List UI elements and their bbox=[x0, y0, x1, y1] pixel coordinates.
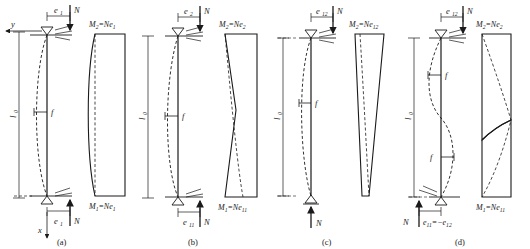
panel-b-moment-diagram: M2=Ne2 M1=Ne11 bbox=[217, 20, 257, 213]
panel-c-bottom-support bbox=[303, 195, 319, 204]
panel-a-deflection-label: f bbox=[51, 107, 55, 117]
panel-b-moment-bottom-label: M1=Ne11 bbox=[217, 203, 247, 213]
panel-a-moment-diagram: M2=Ne1 M1=Ne1 bbox=[88, 20, 125, 212]
panel-b-top-load: e 2 N bbox=[178, 6, 211, 31]
panel-a-top-ecc-sub: 1 bbox=[60, 10, 63, 16]
panel-a-length-dimension: l 0 bbox=[8, 32, 25, 198]
panel-b-bottom-ecc-sub: 11 bbox=[189, 222, 194, 228]
panel-c-length-label: l bbox=[272, 117, 282, 120]
panel-b-moment-top-label: M2=Ne2 bbox=[218, 20, 246, 30]
panel-b-deflection-indicator: f bbox=[165, 111, 186, 121]
panel-a-top-support bbox=[30, 26, 72, 40]
panel-d-top-support bbox=[429, 29, 466, 43]
panel-d-deflection-indicator-upper: f bbox=[428, 70, 449, 80]
panel-a-moment-top-label: M2=Ne1 bbox=[88, 20, 116, 30]
panel-b-top-ecc-label: e bbox=[184, 6, 188, 16]
panel-d-bottom-load-label: N bbox=[402, 217, 410, 227]
panel-a-top-load: e 1 N bbox=[47, 5, 81, 30]
panel-c-caption: (c) bbox=[322, 237, 332, 247]
panel-d-length-dimension: l 0 bbox=[403, 38, 428, 197]
panel-d-top-load: e 12 N bbox=[441, 6, 474, 33]
panel-b-bottom-load-label: N bbox=[203, 217, 211, 227]
panel-a-top-ecc-label: e bbox=[54, 5, 58, 15]
panel-a-bottom-ecc-label: e bbox=[54, 216, 58, 226]
panel-a-top-load-label: N bbox=[73, 5, 81, 15]
panel-a-deflection-indicator: f bbox=[34, 107, 55, 117]
panel-c-moment-diagram: M2=Ne12 bbox=[348, 20, 384, 196]
panel-c: l 0 f e bbox=[272, 6, 384, 247]
panel-a-moment-bottom-label: M1=Ne1 bbox=[88, 202, 116, 212]
panel-a-caption: (a) bbox=[57, 237, 67, 247]
panel-c-top-ecc-sub: 12 bbox=[322, 11, 328, 17]
panel-a-length-sub: 0 bbox=[13, 110, 19, 113]
panel-d-top-ecc-sub: 12 bbox=[452, 11, 458, 17]
panel-d-bottom-support bbox=[419, 186, 460, 205]
panel-b-length-dimension: l 0 bbox=[137, 36, 154, 198]
panel-d: l 0 f f bbox=[402, 6, 511, 247]
panel-c-bottom-load-label: N bbox=[315, 218, 323, 228]
panel-a-y-label: y bbox=[10, 19, 15, 29]
panel-a-x-axis: x bbox=[37, 212, 47, 238]
panel-c-top-support bbox=[299, 29, 336, 43]
panel-b-length-label: l bbox=[137, 117, 147, 120]
panel-d-top-load-label: N bbox=[466, 6, 474, 16]
panel-d-deflection-label-upper: f bbox=[445, 70, 449, 80]
panel-a-deflected-shape bbox=[37, 35, 48, 196]
panel-a: y x l 0 bbox=[6, 5, 125, 247]
panel-a-y-axis: y bbox=[6, 19, 42, 31]
panel-c-length-sub: 0 bbox=[277, 112, 283, 115]
panel-d-caption: (d) bbox=[455, 237, 465, 247]
panel-d-moment-diagram: M2=Ne2 M1=Ne11 bbox=[475, 20, 511, 213]
panel-d-length-sub: 0 bbox=[408, 112, 414, 115]
structural-column-figure: y x l 0 bbox=[0, 0, 530, 249]
panel-c-bottom-load: N bbox=[311, 207, 323, 228]
panel-b-bottom-support bbox=[165, 189, 203, 205]
panel-d-length-label: l bbox=[403, 117, 413, 120]
panel-d-moment-top-label: M2=Ne2 bbox=[475, 20, 503, 30]
panel-a-bottom-load-label: N bbox=[73, 216, 81, 226]
panel-b-top-support bbox=[165, 27, 203, 41]
panel-c-deflection-label: f bbox=[315, 98, 319, 108]
panel-d-top-ecc-label: e bbox=[446, 6, 450, 16]
panel-a-bottom-ecc-sub: 1 bbox=[60, 221, 63, 227]
panel-d-bottom-ecc-label: e11=−e12 bbox=[423, 218, 452, 228]
panel-b-deflected-shape bbox=[168, 36, 179, 197]
panel-c-top-load-label: N bbox=[336, 6, 344, 16]
panel-c-deflected-shape bbox=[302, 38, 311, 196]
panel-d-moment-bottom-label: M1=Ne11 bbox=[475, 203, 505, 213]
panel-c-top-ecc-label: e bbox=[316, 6, 320, 16]
panel-b-bottom-ecc-label: e bbox=[183, 217, 187, 227]
panel-a-length-label: l bbox=[8, 115, 18, 118]
panel-b-caption: (b) bbox=[188, 237, 198, 247]
panel-b-length-sub: 0 bbox=[142, 112, 148, 115]
panel-b-top-ecc-sub: 2 bbox=[190, 11, 193, 17]
panel-c-moment-top-label: M2=Ne12 bbox=[348, 20, 379, 30]
panel-a-bottom-support bbox=[14, 188, 72, 204]
panel-d-deflection-label-lower: f bbox=[430, 152, 434, 162]
panel-a-x-label: x bbox=[37, 225, 42, 235]
panel-c-length-dimension: l 0 bbox=[272, 38, 296, 196]
panel-c-top-load: e 12 N bbox=[311, 6, 344, 33]
panel-b-deflection-label: f bbox=[182, 111, 186, 121]
panel-b-top-load-label: N bbox=[203, 6, 211, 16]
panel-b: l 0 f e bbox=[137, 6, 257, 247]
panel-d-deflection-indicator-lower: f bbox=[430, 152, 454, 162]
